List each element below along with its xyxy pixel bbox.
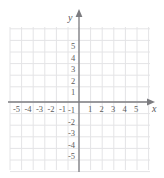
x-tick-label: 5 <box>134 105 138 114</box>
x-tick-label: -5 <box>13 105 20 114</box>
y-tick-label: 5 <box>71 42 75 51</box>
x-tick-label: -2 <box>48 105 55 114</box>
x-tick-label: 1 <box>88 105 92 114</box>
y-tick-label: 2 <box>71 77 75 86</box>
y-tick-label: 4 <box>71 54 75 63</box>
coordinate-plane-svg <box>0 0 164 178</box>
y-axis-name-label: y <box>68 13 72 23</box>
y-tick-label: 1 <box>71 88 75 97</box>
x-tick-label: -1 <box>59 105 66 114</box>
y-tick-label: -4 <box>68 141 75 150</box>
x-axis-name-label: x <box>152 104 156 114</box>
x-tick-label: -4 <box>25 105 32 114</box>
x-tick-label: 2 <box>100 105 104 114</box>
x-tick-label: -3 <box>36 105 43 114</box>
coordinate-plane-figure: -5-4-3-2-112345 54321-1-2-3-4-5 x y <box>0 0 164 178</box>
y-tick-label: -2 <box>68 118 75 127</box>
grid-horizontal-lines <box>10 29 150 172</box>
axes-lines <box>8 9 155 172</box>
y-tick-label: -1 <box>68 106 75 115</box>
x-tick-label: 3 <box>111 105 115 114</box>
y-tick-label: 3 <box>71 65 75 74</box>
x-tick-label: 4 <box>123 105 127 114</box>
y-axis-arrowhead-icon <box>76 9 83 17</box>
y-tick-label: -3 <box>68 129 75 138</box>
y-tick-label: -5 <box>68 152 75 161</box>
